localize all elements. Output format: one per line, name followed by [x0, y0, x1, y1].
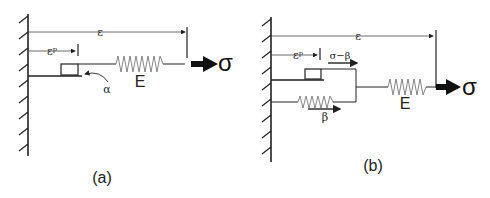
fixed-wall-b — [262, 17, 271, 162]
spring-e-b — [388, 79, 436, 95]
caption-b: (b) — [363, 157, 383, 174]
friction-slider-b — [271, 69, 356, 102]
stress-label-a: σ — [218, 49, 233, 76]
plastic-strain-label-a: εᵖ — [47, 45, 58, 58]
fixed-wall-a — [19, 14, 28, 156]
total-strain-label-b: ε — [355, 30, 361, 43]
modulus-label-b: E — [400, 95, 411, 112]
back-stress-label-b: β — [322, 111, 328, 124]
stress-label-b: σ — [462, 73, 477, 100]
modulus-label-a: E — [135, 73, 146, 90]
panel-b: ε εᵖ σ−β β E — [262, 17, 477, 174]
plastic-strain-label-b: εᵖ — [293, 49, 304, 62]
friction-slider-a — [28, 64, 116, 82]
friction-label-a: α — [103, 83, 111, 96]
total-strain-label-a: ε — [97, 26, 103, 39]
spring-beta-b — [271, 96, 356, 108]
rheological-models-figure: ε εᵖ α E σ (a) — [0, 0, 490, 198]
stress-arrow-b — [436, 79, 461, 95]
stress-arrow-a — [191, 56, 218, 72]
slider-force-label-b: σ−β — [330, 50, 351, 61]
panel-a: ε εᵖ α E σ (a) — [19, 14, 233, 186]
caption-a: (a) — [92, 169, 112, 186]
spring-e-a — [116, 56, 185, 72]
